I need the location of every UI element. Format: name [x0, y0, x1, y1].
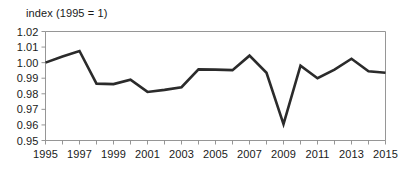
- x-tick-label: 2015: [373, 148, 398, 160]
- x-axis-tick-marks: [46, 141, 386, 145]
- x-tick-label: 2005: [203, 148, 228, 160]
- plot-area: 1.021.011.000.990.980.970.960.95 1995199…: [0, 0, 414, 178]
- x-tick-label: 1999: [101, 148, 126, 160]
- x-tick-label: 2007: [237, 148, 262, 160]
- y-tick-label: 0.96: [17, 119, 39, 131]
- x-tick-label: 2001: [135, 148, 160, 160]
- x-tick-label: 2013: [339, 148, 364, 160]
- y-tick-label: 0.95: [17, 135, 39, 147]
- x-tick-label: 2009: [271, 148, 296, 160]
- x-tick-label: 2011: [305, 148, 329, 160]
- x-tick-label: 2003: [169, 148, 194, 160]
- x-tick-label: 1995: [33, 148, 58, 160]
- y-tick-label: 0.98: [17, 88, 39, 100]
- x-axis-tick-labels: 1995199719992001200320052007200920112013…: [33, 148, 398, 160]
- y-axis-tick-marks: [42, 32, 46, 141]
- y-axis-tick-labels: 1.021.011.000.990.980.970.960.95: [17, 26, 39, 147]
- plot-frame: [46, 32, 386, 141]
- y-tick-label: 0.97: [17, 103, 39, 115]
- y-tick-label: 1.02: [17, 26, 39, 38]
- y-tick-label: 0.99: [17, 72, 39, 84]
- y-tick-label: 1.01: [17, 41, 39, 53]
- x-tick-label: 1997: [67, 148, 92, 160]
- y-tick-label: 1.00: [17, 57, 39, 69]
- line-chart: index (1995 = 1) 1.021.011.000.990.980.9…: [0, 0, 414, 178]
- data-series-line: [46, 51, 386, 124]
